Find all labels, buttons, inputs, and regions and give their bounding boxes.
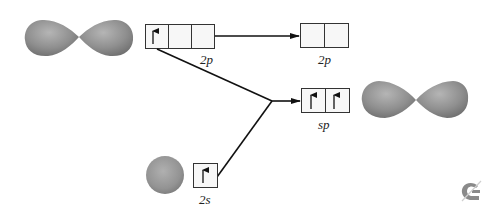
box-initial-2p (146, 25, 215, 49)
p-orbital-left-lobe-1 (25, 20, 79, 56)
box-initial-2s (194, 164, 218, 188)
publisher-logo-icon (462, 181, 481, 201)
line-2p-to-junction (157, 49, 272, 101)
sp-orbital-right (362, 81, 468, 118)
sp-orbital-right-lobe-2 (416, 81, 468, 118)
sp-hybridization-diagram: 2p 2p sp 2s (0, 0, 499, 211)
p-orbital-left-lobe-2 (79, 20, 133, 56)
sp-orbital-right-lobe-1 (362, 81, 416, 118)
label-initial-2p: 2p (200, 52, 214, 67)
s-orbital-sphere (146, 156, 184, 194)
line-2s-to-junction (217, 101, 272, 177)
label-remaining-2p: 2p (318, 52, 332, 67)
box-remaining-2p (301, 24, 349, 48)
label-hybrid-sp: sp (318, 117, 330, 132)
label-initial-2s: 2s (199, 192, 211, 207)
p-orbital-left (25, 20, 133, 56)
box-hybrid-sp (302, 89, 350, 113)
